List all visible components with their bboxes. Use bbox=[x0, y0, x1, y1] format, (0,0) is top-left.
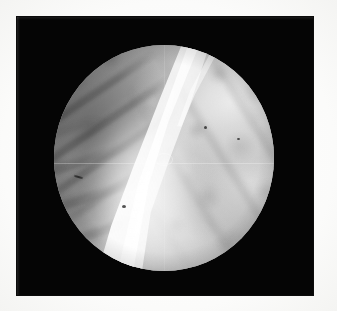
figure-page: Grayscale endoscopic photograph: circula… bbox=[0, 0, 337, 311]
bright-wedge-body bbox=[54, 45, 274, 271]
horizontal-scan-line-artifact bbox=[54, 163, 274, 164]
vascular-striation-layer bbox=[54, 45, 274, 271]
bright-wedge-filament bbox=[54, 45, 274, 271]
dark-speck-artifact bbox=[237, 138, 240, 140]
tissue-mottle-layer bbox=[54, 45, 274, 271]
tissue-base-layer bbox=[54, 45, 274, 271]
field-of-view-vignette bbox=[54, 45, 274, 271]
dark-speck-artifact bbox=[204, 126, 207, 129]
vertical-scan-line-artifact bbox=[164, 45, 165, 271]
dark-speck-artifact bbox=[74, 175, 83, 179]
bright-wedge bbox=[54, 45, 274, 271]
film-grain-artifact bbox=[54, 45, 274, 271]
upper-left-folds-layer bbox=[54, 45, 274, 271]
dark-speck-artifact bbox=[122, 205, 126, 208]
bright-wedge-edge-highlight bbox=[54, 45, 274, 271]
lower-left-folds-layer bbox=[54, 45, 274, 271]
endoscopic-field-of-view bbox=[54, 45, 274, 271]
photographic-plate bbox=[17, 17, 313, 295]
centre-ring-artifact bbox=[155, 153, 173, 166]
